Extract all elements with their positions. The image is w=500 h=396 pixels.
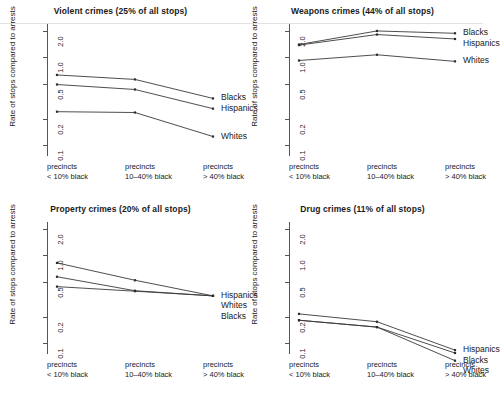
x-label-line1: precincts [47, 360, 88, 370]
y-axis-label: Rate of stops compared to arrests [250, 6, 259, 128]
x-axis-category-label: precincts< 10% black [289, 360, 330, 379]
panel-title: Violent crimes (25% of all stops) [0, 6, 241, 16]
panel-drug-crimes: Drug crimes (11% of all stops) Rate of s… [242, 198, 483, 396]
series-label-whites: Whites [463, 55, 489, 65]
x-axis-category-label: precincts> 40% black [203, 360, 244, 379]
x-axis-category-label: precincts< 10% black [47, 162, 88, 181]
data-point [56, 276, 58, 278]
x-label-line2: 10–40% black [367, 370, 414, 380]
x-label-line2: < 10% black [289, 172, 330, 182]
x-label-line1: precincts [125, 162, 172, 172]
x-label-line1: precincts [125, 360, 172, 370]
x-label-line1: precincts [203, 162, 244, 172]
panel-title: Weapons crimes (44% of all stops) [242, 6, 483, 16]
x-label-line2: 10–40% black [367, 172, 414, 182]
x-label-line1: precincts [289, 360, 330, 370]
data-point [56, 286, 58, 288]
y-axis-label: Rate of stops compared to arrests [8, 204, 17, 326]
x-axis-category-label: precincts10–40% black [367, 162, 414, 181]
x-axis-category-label: precincts10–40% black [125, 360, 172, 379]
data-point [376, 326, 378, 328]
x-axis-category-label: precincts> 40% black [203, 162, 244, 181]
y-axis-label: Rate of stops compared to arrests [250, 204, 259, 326]
data-point [212, 108, 214, 110]
data-point [376, 30, 378, 32]
x-axis-category-label: precincts10–40% black [367, 360, 414, 379]
x-label-line2: > 40% black [445, 172, 486, 182]
data-point [376, 33, 378, 35]
plot-area: 0.10.20.51.02.0precincts< 10% blackpreci… [289, 222, 475, 354]
x-label-line2: 10–40% black [125, 370, 172, 380]
x-label-line2: 10–40% black [125, 172, 172, 182]
series-line-hispanics [299, 35, 455, 46]
x-label-line1: precincts [367, 360, 414, 370]
data-point [134, 88, 136, 90]
panel-property-crimes: Property crimes (20% of all stops) Rate … [0, 198, 241, 396]
data-point [212, 135, 214, 137]
series-line-whites [57, 112, 213, 137]
plot-area: 0.10.20.51.02.0precincts< 10% blackpreci… [289, 24, 475, 156]
x-label-line2: < 10% black [47, 370, 88, 380]
x-axis-category-label: precincts< 10% black [289, 162, 330, 181]
x-label-line2: < 10% black [47, 172, 88, 182]
data-point [454, 360, 456, 362]
series-line-blacks [299, 320, 455, 353]
series-label-whites: Whites [463, 365, 489, 375]
data-point [298, 319, 300, 321]
series-lines [47, 222, 233, 354]
series-line-hispanics [57, 85, 213, 109]
data-point [298, 59, 300, 61]
data-point [454, 60, 456, 62]
x-label-line1: precincts [367, 162, 414, 172]
plot-area: 0.10.20.51.02.0precincts< 10% blackpreci… [47, 24, 233, 156]
data-point [298, 44, 300, 46]
data-point [212, 295, 214, 297]
data-point [134, 290, 136, 292]
data-point [298, 313, 300, 315]
x-label-line2: > 40% black [203, 172, 244, 182]
series-lines [289, 24, 475, 156]
data-point [454, 38, 456, 40]
data-point [454, 349, 456, 351]
data-point [454, 352, 456, 354]
series-label-hispanics: Hispanics [463, 38, 500, 48]
data-point [134, 78, 136, 80]
x-axis-category-label: precincts> 40% black [445, 162, 486, 181]
data-point [56, 262, 58, 264]
x-label-line2: < 10% black [289, 370, 330, 380]
x-label-line1: precincts [445, 162, 486, 172]
panel-violent-crimes: Violent crimes (25% of all stops) Rate o… [0, 0, 241, 198]
x-label-line1: precincts [203, 360, 244, 370]
series-line-hispanics [299, 314, 455, 350]
series-lines [47, 24, 233, 156]
series-label-blacks: Blacks [463, 27, 488, 37]
data-point [56, 74, 58, 76]
data-point [134, 111, 136, 113]
y-axis-label: Rate of stops compared to arrests [8, 6, 17, 128]
x-axis-category-label: precincts< 10% black [47, 360, 88, 379]
panel-title: Drug crimes (11% of all stops) [242, 204, 483, 214]
panel-weapons-crimes: Weapons crimes (44% of all stops) Rate o… [242, 0, 483, 198]
data-point [56, 83, 58, 85]
data-point [56, 111, 58, 113]
data-point [376, 54, 378, 56]
series-lines [289, 222, 475, 354]
series-label-hispanics: Hispanics [463, 344, 500, 354]
x-label-line2: > 40% black [203, 370, 244, 380]
x-axis-category-label: precincts10–40% black [125, 162, 172, 181]
data-point [454, 32, 456, 34]
data-point [212, 97, 214, 99]
panel-title: Property crimes (20% of all stops) [0, 204, 241, 214]
plot-area: 0.10.20.51.02.0precincts< 10% blackpreci… [47, 222, 233, 354]
x-label-line1: precincts [47, 162, 88, 172]
series-label-blacks: Blacks [463, 355, 488, 365]
data-point [376, 321, 378, 323]
data-point [134, 279, 136, 281]
x-label-line1: precincts [289, 162, 330, 172]
